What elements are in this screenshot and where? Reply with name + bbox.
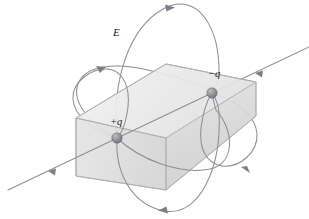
negative-charge-label: −q [208, 69, 220, 80]
negative-charge-sphere [207, 88, 217, 98]
arrowhead-large-loop-bottom [158, 207, 168, 214]
positive-charge-sphere [112, 133, 122, 143]
rectangular-gaussian-surface [76, 64, 256, 190]
arrowhead-right-loop [241, 166, 250, 173]
figure-canvas [0, 0, 309, 219]
field-label-E: E [113, 27, 120, 38]
physics-figure-electric-dipole: E +q −q [0, 0, 309, 219]
positive-charge-label: +q [110, 117, 122, 128]
